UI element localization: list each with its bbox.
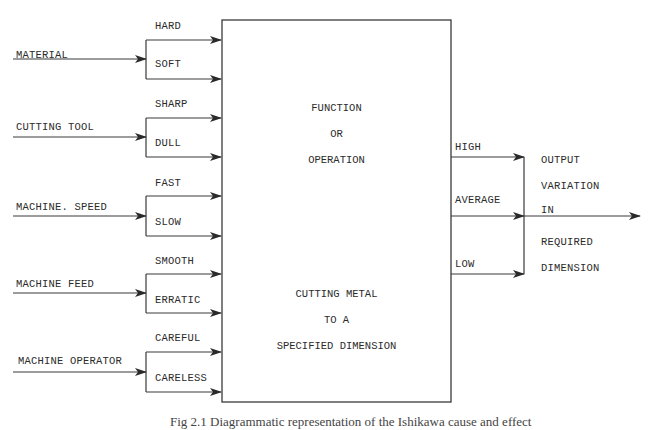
input-label-machine-operator: MACHINE OPERATOR	[18, 355, 122, 367]
output-result-line-1: OUTPUT	[541, 154, 580, 166]
output-result-line-2: VARIATION	[541, 180, 600, 192]
output-level-high: HIGH	[455, 141, 481, 153]
input-label-machine-speed: MACHINE. SPEED	[16, 201, 107, 213]
option-label-slow: SLOW	[155, 216, 181, 228]
option-label-soft: SOFT	[155, 58, 181, 70]
output-level-average: AVERAGE	[455, 194, 501, 206]
process-title-line-3: OPERATION	[222, 154, 451, 166]
option-label-erratic: ERRATIC	[155, 294, 201, 306]
process-title-line-1: FUNCTION	[222, 102, 451, 114]
process-description-line-1: CUTTING METAL	[222, 288, 451, 300]
output-level-low: LOW	[455, 258, 475, 270]
output-result-line-4: REQUIRED	[541, 236, 593, 248]
option-label-hard: HARD	[155, 20, 181, 32]
process-title-line-2: OR	[222, 128, 451, 140]
option-label-dull: DULL	[155, 137, 181, 149]
option-label-sharp: SHARP	[155, 98, 188, 110]
output-result-line-3: IN	[541, 204, 554, 216]
input-label-machine-feed: MACHINE FEED	[16, 278, 94, 290]
input-label-material: MATERIAL	[16, 49, 68, 61]
output-result-line-5: DIMENSION	[541, 262, 600, 274]
input-label-cutting-tool: CUTTING TOOL	[16, 121, 94, 133]
process-description-line-2: TO A	[222, 314, 451, 326]
option-label-fast: FAST	[155, 177, 181, 189]
option-label-smooth: SMOOTH	[155, 255, 194, 267]
option-label-careless: CARELESS	[155, 372, 207, 384]
option-label-careful: CAREFUL	[155, 332, 201, 344]
figure-caption: Fig 2.1 Diagrammatic representation of t…	[170, 414, 531, 430]
process-description-line-3: SPECIFIED DIMENSION	[222, 340, 451, 352]
